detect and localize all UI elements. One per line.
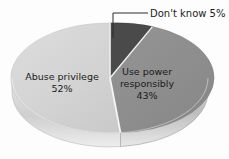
label-dont-know: Don't know 5% [150,8,225,19]
label-abuse-privilege-value: 52% [51,83,72,94]
label-abuse-privilege-line1: Abuse privilege [25,71,99,82]
label-use-power-line1: Use power [122,66,172,77]
pie-chart-figure: Don't know 5% Use power responsibly 43% … [0,0,229,159]
label-use-power-value: 43% [136,90,157,101]
cropped-title-remnant [0,0,229,4]
label-use-power-line2: responsibly [120,78,175,89]
pie-chart-svg: Don't know 5% Use power responsibly 43% … [0,0,229,159]
